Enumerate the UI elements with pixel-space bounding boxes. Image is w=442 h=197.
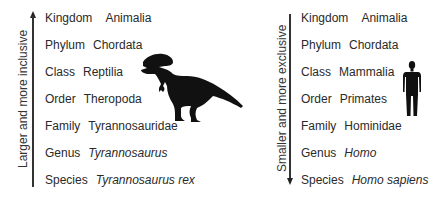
rank-label: Family [301,119,336,133]
rank-label: Order [45,92,76,106]
left-taxonomy-panel: Larger and more inclusive KingdomAnimali… [0,0,265,197]
taxonomy-row-genus: GenusHomo [301,146,376,160]
taxonomy-row-class: ClassReptilia [45,65,123,79]
taxon-name: Primates [340,92,387,106]
taxonomy-row-family: FamilyHominidae [301,119,402,133]
taxonomy-row-phylum: PhylumChordata [45,38,142,52]
taxon-name: Animalia [361,11,407,25]
rank-label: Class [45,65,75,79]
taxonomy-row-class: ClassMammalia [301,65,394,79]
taxonomy-row-genus: GenusTyrannosaurus [45,146,168,160]
right-axis-line [289,14,291,182]
rank-label: Phylum [301,38,341,52]
rank-label: Genus [45,146,80,160]
rank-label: Species [301,173,344,187]
taxonomy-row-phylum: PhylumChordata [301,38,398,52]
tyrannosaurus-icon [135,50,245,125]
taxon-name: Reptilia [83,65,123,79]
left-axis-label: Larger and more inclusive [16,30,30,168]
taxon-name: Tyrannosaurus [88,146,167,160]
taxonomy-row-species: SpeciesTyrannosaurus rex [45,173,195,187]
taxonomy-row-species: SpeciesHomo sapiens [301,173,428,187]
down-arrow-icon [287,178,293,185]
taxonomy-row-order: OrderPrimates [301,92,387,106]
rank-label: Phylum [45,38,85,52]
human-icon [401,60,423,118]
taxon-name: Hominidae [344,119,401,133]
taxon-name: Tyrannosaurus rex [96,173,195,187]
right-taxonomy-panel: Smaller and more exclusive KingdomAnimal… [265,0,442,197]
taxon-name: Homo sapiens [352,173,429,187]
rank-label: Order [301,92,332,106]
rank-label: Kingdom [301,11,348,25]
rank-label: Genus [301,146,336,160]
taxon-name: Animalia [105,11,151,25]
rank-label: Species [45,173,88,187]
left-axis-line [32,16,34,187]
taxon-name: Homo [344,146,376,160]
rank-label: Kingdom [45,11,92,25]
taxon-name: Theropoda [84,92,142,106]
rank-label: Family [45,119,80,133]
right-axis-label: Smaller and more exclusive [275,25,289,172]
taxonomy-row-order: OrderTheropoda [45,92,142,106]
taxon-name: Mammalia [339,65,394,79]
taxonomy-row-kingdom: KingdomAnimalia [301,11,407,25]
rank-label: Class [301,65,331,79]
taxonomy-row-kingdom: KingdomAnimalia [45,11,151,25]
taxon-name: Chordata [349,38,398,52]
